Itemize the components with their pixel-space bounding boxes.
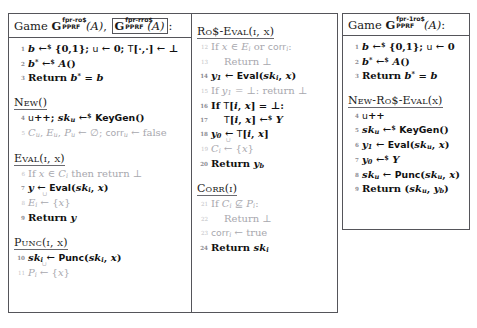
line-code: Return y (28, 211, 76, 225)
line-number: 17 (197, 117, 208, 125)
line-code: b* ←$ A() (362, 55, 410, 69)
line-number: 16 (197, 103, 208, 111)
line-code: If T[i, x] = ⊥: (211, 99, 284, 113)
code-line: 1 b ←$ {0,1}; u ← 0; T[·,·] ← ⊥ (14, 42, 187, 56)
code-line: 6 y1 ← Eval(sku, x) (348, 138, 465, 153)
line-number: 1 (348, 44, 359, 52)
line-code: If x ∈ Ei or corri: (211, 40, 292, 55)
line-number: 19 (197, 146, 208, 154)
line-code: Return yb (211, 157, 264, 172)
code-line: 6 If x ∈ Ci then return ⊥ (14, 167, 187, 182)
line-number: 9 (14, 215, 25, 223)
header-separator: , (103, 19, 107, 33)
line-code: Ei ←∪ {x} (28, 196, 71, 211)
line-code: y1 ← Eval(ski, x) (211, 69, 296, 84)
line-number: 3 (348, 73, 359, 81)
line-code: Return b* = b (362, 69, 437, 83)
right-game-box: Game Gfpr-1ro$PPRF (A): 1 b ←$ {0,1}; u … (342, 13, 470, 230)
header-colon: : (169, 19, 173, 33)
code-line: 1 b ←$ {0,1}; u ← 0 (348, 40, 465, 54)
code-line: 16 If T[i, x] = ⊥: (197, 99, 335, 113)
middle-column-body: Ro$-Eval(i, x) 12 If x ∈ Ei or corri: 13… (192, 14, 339, 258)
line-number: 8 (348, 172, 359, 180)
highlighted-game-2-box: Gfpr-rro$PPRF (A) (112, 18, 168, 34)
line-code: u++ (362, 109, 385, 123)
code-line: 18 y0 ← T[i, x] (197, 127, 335, 142)
line-number: 11 (14, 270, 25, 278)
code-line: 15 If y1 = ⊥: return ⊥ (197, 84, 335, 99)
line-code: b* ←$ A() (28, 57, 76, 71)
line-code: y ← Eval(ski, x) (28, 181, 109, 196)
line-code: Return (sku, yb) (362, 182, 449, 197)
line-code: If x ∈ Ci then return ⊥ (28, 167, 142, 182)
code-line: 8 Ei ←∪ {x} (14, 196, 187, 211)
line-code: u++; sku ←$ KeyGen() (28, 111, 145, 126)
line-number: 6 (14, 171, 25, 179)
main-game-box: Game Gfpr-ro$PPRF (A), Gfpr-rro$PPRF (A)… (8, 13, 338, 313)
line-number: 21 (197, 201, 208, 209)
game-keyword: Game (14, 19, 48, 33)
line-number: 10 (14, 255, 25, 263)
line-number: 15 (197, 88, 208, 96)
line-number: 20 (197, 161, 208, 169)
code-line: 19 Ci ←∪ {x} (197, 142, 335, 157)
line-code: sku ←$ KeyGen() (362, 123, 449, 138)
line-code: Return b* = b (28, 71, 103, 85)
left-column: Game Gfpr-ro$PPRF (A), Gfpr-rro$PPRF (A)… (9, 14, 192, 312)
game-1-subscript: PPRF (62, 24, 80, 30)
code-line: 12 If x ∈ Ei or corri: (197, 40, 335, 55)
line-number: 2 (14, 61, 25, 69)
code-line: 9 Return (sku, yb) (348, 182, 465, 197)
line-number: 22 (197, 216, 208, 224)
line-number: 13 (197, 59, 208, 67)
line-number: 4 (348, 113, 359, 121)
game-keyword: Game (348, 18, 382, 32)
line-code: y1 ← Eval(sku, x) (362, 138, 449, 153)
code-line: 21 If Ci ⊈ Pi: (197, 197, 335, 212)
left-column-body: 1 b ←$ {0,1}; u ← 0; T[·,·] ← ⊥ 2 b* ←$ … (9, 38, 191, 282)
code-line: 4 u++ (348, 109, 465, 123)
line-number: 18 (197, 131, 208, 139)
line-number: 24 (197, 245, 208, 253)
right-column-body: 1 b ←$ {0,1}; u ← 0 2 b* ←$ A() 3 Return… (343, 36, 469, 199)
code-line: 7 y0 ←$ Y (348, 153, 465, 168)
line-code: b ←$ {0,1}; u ← 0 (362, 40, 455, 54)
code-line: 3 Return b* = b (14, 71, 187, 85)
code-line: 23 corri ← true (197, 226, 335, 241)
line-number: 23 (197, 230, 208, 238)
line-code: If y1 = ⊥: return ⊥ (211, 84, 307, 99)
header-colon: : (441, 18, 445, 32)
procedure-heading-punc: Punc(i, x) (14, 236, 68, 250)
line-code: Ci ←∪ {x} (211, 142, 254, 157)
line-number: 7 (348, 157, 359, 165)
code-line: 11 Pi ←∪ {x} (14, 266, 187, 281)
game-argument: (A) (424, 18, 441, 32)
code-line: 9 Return y (14, 211, 187, 225)
line-code: Pi ←∪ {x} (28, 266, 70, 281)
game-1-symbol: Gfpr-ro$PPRF (51, 19, 62, 33)
code-line: 2 b* ←$ A() (14, 57, 187, 71)
line-code: Return ⊥ (211, 55, 272, 69)
code-line: 5 sku ←$ KeyGen() (348, 123, 465, 138)
line-number: 5 (348, 127, 359, 135)
code-line: 20 Return yb (197, 157, 335, 172)
line-code: Return ⊥ (211, 212, 272, 226)
middle-column: Ro$-Eval(i, x) 12 If x ∈ Ei or corri: 13… (192, 14, 339, 312)
code-line: 3 Return b* = b (348, 69, 465, 83)
line-number: 12 (197, 44, 208, 52)
game-subscript: PPRF (396, 23, 414, 29)
code-line: 5 Cu, Eu, Pu ← ∅; corru ← false (14, 126, 187, 141)
line-number: 2 (348, 59, 359, 67)
procedure-heading-ro-eval: Ro$-Eval(i, x) (197, 25, 274, 39)
line-code: y0 ← T[i, x] (211, 127, 269, 142)
code-line: 8 sku ← Punc(sku, x) (348, 168, 465, 183)
line-number: 9 (348, 186, 359, 194)
procedure-heading-new-ro-eval: New-Ro$-Eval(x) (348, 94, 443, 108)
line-number: 1 (14, 46, 25, 54)
code-line: 22 Return ⊥ (197, 212, 335, 226)
line-number: 8 (14, 200, 25, 208)
game-symbol: Gfpr-1ro$PPRF (385, 18, 396, 32)
line-code: Cu, Eu, Pu ← ∅; corru ← false (28, 126, 167, 141)
line-code: y0 ←$ Y (362, 153, 400, 168)
game-1-argument: (A) (86, 19, 103, 33)
